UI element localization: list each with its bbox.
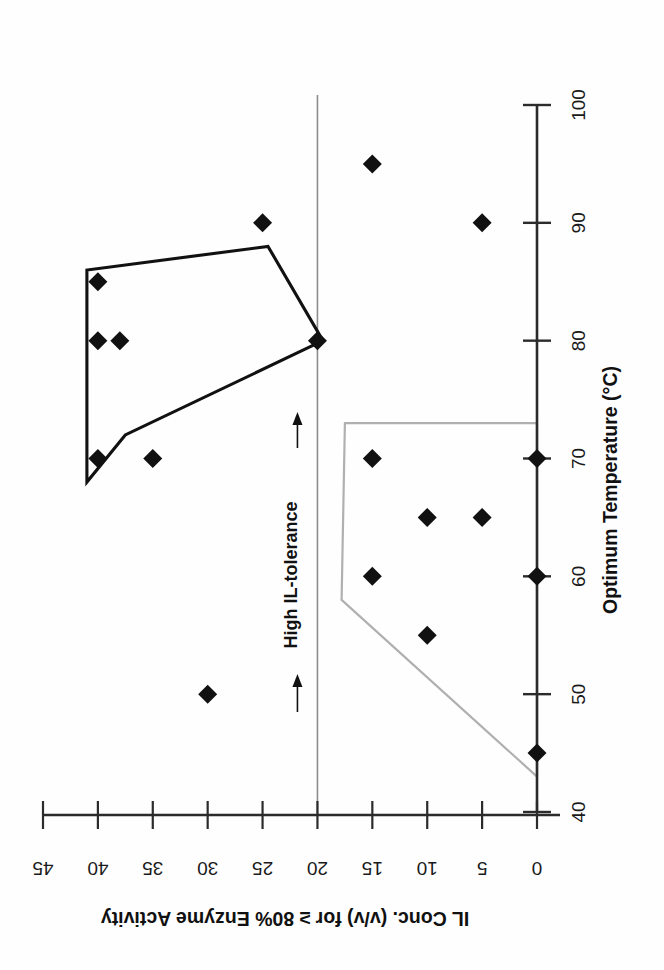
- temperature-tick-label: 80: [568, 330, 589, 351]
- scatter-plot: 405060708090100 051015202530354045 High …: [0, 0, 664, 970]
- chart-page: 405060708090100 051015202530354045 High …: [0, 0, 664, 970]
- temperature-tick-label: 100: [568, 89, 589, 121]
- il-conc-tick-label: 20: [307, 858, 328, 879]
- x-axis-title: Optimum Temperature (°C): [599, 366, 621, 614]
- il-conc-tick-label: 35: [142, 858, 163, 879]
- il-conc-tick-label: 30: [197, 858, 218, 879]
- il-conc-tick-label: 0: [532, 858, 543, 879]
- temperature-tick-label: 50: [568, 684, 589, 705]
- temperature-tick-label: 60: [568, 566, 589, 587]
- annotation-label: High IL-tolerance: [281, 501, 301, 648]
- il-conc-tick-label: 15: [362, 858, 383, 879]
- il-conc-tick-label: 5: [477, 858, 488, 879]
- y-axis-title: IL Conc. (v/v) for ≥ 80% Enzyme Activity: [101, 908, 469, 930]
- il-conc-tick-label: 10: [417, 858, 438, 879]
- plot-background: [0, 0, 664, 970]
- il-conc-tick-label: 45: [32, 858, 53, 879]
- il-conc-tick-label: 40: [87, 858, 108, 879]
- temperature-tick-label: 40: [568, 801, 589, 822]
- temperature-tick-label: 70: [568, 448, 589, 469]
- temperature-tick-label: 90: [568, 212, 589, 233]
- il-conc-tick-label: 25: [252, 858, 273, 879]
